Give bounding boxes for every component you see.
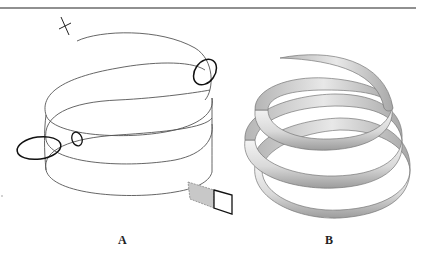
diagram-canvas xyxy=(0,0,426,257)
profile-circle-left-large xyxy=(16,134,63,162)
stray-mark xyxy=(1,195,3,197)
profile-circle-top-right xyxy=(189,55,221,89)
panel-label-a: A xyxy=(118,233,127,248)
start-cross-marker xyxy=(59,17,71,35)
panel-b-solid xyxy=(245,55,410,218)
panel-label-b: B xyxy=(325,233,333,248)
sweep-rectangle xyxy=(188,182,232,214)
panel-a-helix xyxy=(45,33,213,196)
